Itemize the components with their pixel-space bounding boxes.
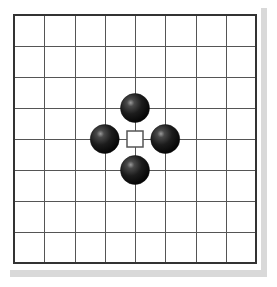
black-stone-icon xyxy=(151,125,180,154)
shadow-right xyxy=(261,8,267,277)
black-stone-icon xyxy=(121,156,150,185)
go-board-diagram xyxy=(0,0,277,287)
go-board xyxy=(0,0,277,287)
square-marker-icon xyxy=(127,131,143,147)
black-stone-icon xyxy=(90,125,119,154)
markers xyxy=(127,131,143,147)
black-stone-icon xyxy=(121,94,150,123)
shadow-bottom xyxy=(10,270,267,277)
